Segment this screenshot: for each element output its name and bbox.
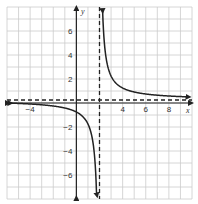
- svg-text:2: 2: [68, 75, 73, 84]
- svg-text:8: 8: [167, 105, 172, 114]
- y-axis-label: y: [80, 7, 85, 16]
- svg-text:−6: −6: [63, 171, 73, 180]
- svg-text:6: 6: [68, 27, 73, 36]
- svg-text:−2: −2: [63, 123, 73, 132]
- rational-function-graph: −4468642−2−4−6 x y: [0, 0, 198, 204]
- svg-text:4: 4: [68, 51, 73, 60]
- svg-text:4: 4: [120, 105, 125, 114]
- svg-text:6: 6: [144, 105, 149, 114]
- svg-text:−4: −4: [26, 105, 36, 114]
- svg-text:−4: −4: [63, 147, 73, 156]
- x-axis-label: x: [185, 106, 190, 115]
